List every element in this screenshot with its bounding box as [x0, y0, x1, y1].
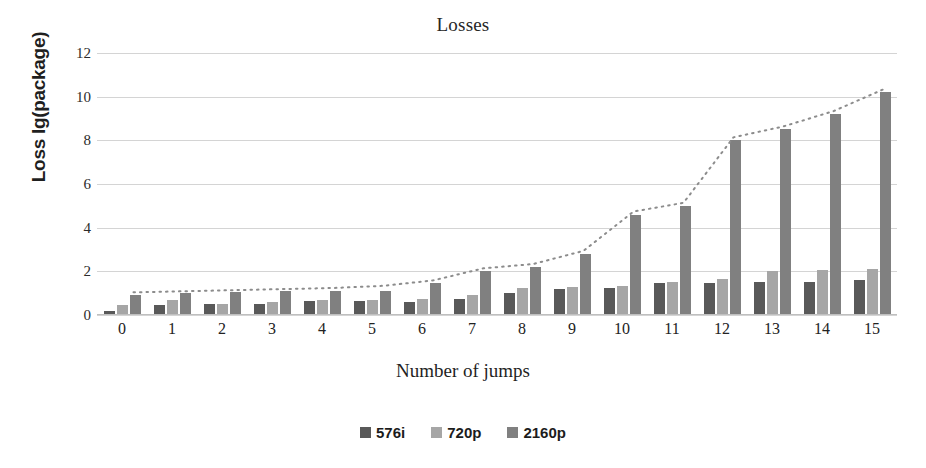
legend-item[interactable]: 720p [431, 424, 481, 441]
bar-576i [554, 289, 565, 315]
bar-576i [354, 301, 365, 315]
bar-576i [754, 282, 765, 315]
y-axis-ticks: 024681012 [47, 53, 91, 315]
bar-720p [167, 300, 178, 315]
bar-2160p [730, 140, 741, 315]
x-axis-tick-label: 11 [647, 320, 697, 348]
bar-576i [304, 301, 315, 315]
bar-720p [667, 282, 678, 315]
x-axis-tick-label: 5 [347, 320, 397, 348]
bar-720p [617, 286, 628, 315]
bar-576i [654, 283, 665, 315]
bar-2160p [180, 293, 191, 315]
bar-720p [317, 300, 328, 315]
bar-2160p [630, 215, 641, 315]
chart-legend: 576i720p2160p [0, 424, 926, 441]
bar-2160p [580, 254, 591, 315]
bar-group [447, 53, 497, 315]
bar-720p [767, 271, 778, 315]
legend-label: 576i [376, 424, 405, 441]
bar-2160p [780, 129, 791, 315]
x-axis-tick-label: 10 [597, 320, 647, 348]
bar-group [547, 53, 597, 315]
legend-label: 720p [447, 424, 481, 441]
x-axis-tick-label: 15 [847, 320, 897, 348]
bar-2160p [330, 291, 341, 315]
bar-group [747, 53, 797, 315]
gridline [97, 315, 897, 316]
bar-720p [567, 287, 578, 315]
bar-group [647, 53, 697, 315]
bar-2160p [880, 92, 891, 315]
bar-group [797, 53, 847, 315]
x-axis-tick-labels: 0123456789101112131415 [97, 320, 897, 348]
bar-group [297, 53, 347, 315]
x-axis-tick-label: 0 [97, 320, 147, 348]
legend-item[interactable]: 576i [360, 424, 405, 441]
plot-area [97, 53, 897, 315]
bar-576i [604, 288, 615, 315]
y-axis-tick-label: 10 [57, 88, 91, 105]
bar-group [247, 53, 297, 315]
bar-576i [704, 283, 715, 315]
legend-label: 2160p [523, 424, 566, 441]
legend-swatch-icon [360, 427, 371, 438]
y-axis-tick-label: 4 [57, 219, 91, 236]
bar-group [197, 53, 247, 315]
bar-group [847, 53, 897, 315]
bar-576i [454, 299, 465, 315]
x-axis-tick-label: 8 [497, 320, 547, 348]
bar-groups [97, 53, 897, 315]
x-axis-title: Number of jumps [0, 360, 926, 382]
y-axis-tick-label: 0 [57, 307, 91, 324]
bar-576i [504, 293, 515, 315]
x-axis-tick-label: 14 [797, 320, 847, 348]
x-axis-tick-label: 7 [447, 320, 497, 348]
bar-group [397, 53, 447, 315]
bar-720p [717, 279, 728, 315]
chart-container: Losses Loss lg(package) 024681012 012345… [0, 0, 926, 468]
legend-item[interactable]: 2160p [507, 424, 566, 441]
bar-2160p [130, 295, 141, 315]
x-axis-tick-label: 2 [197, 320, 247, 348]
x-axis-tick-label: 9 [547, 320, 597, 348]
x-axis-tick-label: 13 [747, 320, 797, 348]
bar-2160p [480, 271, 491, 315]
x-axis-tick-label: 4 [297, 320, 347, 348]
bar-group [497, 53, 547, 315]
bar-576i [854, 280, 865, 315]
bar-group [347, 53, 397, 315]
x-axis-tick-label: 3 [247, 320, 297, 348]
x-axis-tick-label: 6 [397, 320, 447, 348]
bar-576i [804, 282, 815, 315]
bar-group [697, 53, 747, 315]
bar-720p [417, 299, 428, 315]
x-axis-tick-label: 1 [147, 320, 197, 348]
bar-720p [367, 300, 378, 315]
y-axis-tick-label: 8 [57, 132, 91, 149]
x-axis-tick-label: 12 [697, 320, 747, 348]
bar-2160p [380, 291, 391, 315]
bar-group [597, 53, 647, 315]
bar-group [97, 53, 147, 315]
bar-group [147, 53, 197, 315]
y-axis-tick-label: 12 [57, 45, 91, 62]
bar-720p [467, 295, 478, 315]
bar-2160p [830, 114, 841, 315]
bar-2160p [430, 283, 441, 315]
x-axis-line [97, 314, 897, 315]
chart-title: Losses [0, 14, 926, 36]
legend-swatch-icon [431, 427, 442, 438]
bar-2160p [530, 267, 541, 315]
legend-swatch-icon [507, 427, 518, 438]
bar-2160p [230, 292, 241, 315]
y-axis-tick-label: 2 [57, 263, 91, 280]
bar-720p [867, 269, 878, 315]
bar-720p [517, 288, 528, 315]
bar-720p [817, 270, 828, 315]
bar-2160p [680, 206, 691, 315]
bar-2160p [280, 291, 291, 315]
y-axis-tick-label: 6 [57, 176, 91, 193]
